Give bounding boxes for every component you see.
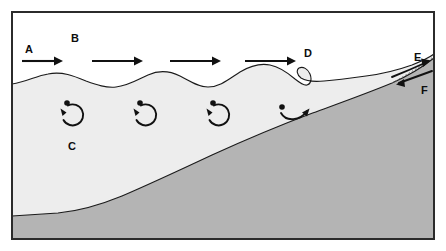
wave-diagram: A B C D E F [0,0,446,251]
label-e: E [414,52,422,63]
label-f: F [421,85,428,96]
label-a: A [25,44,33,55]
label-c: C [68,141,76,152]
orbital-particle-dot-4 [279,104,285,110]
label-d: D [304,48,312,59]
label-b: B [71,33,79,44]
diagram-canvas [0,0,446,251]
